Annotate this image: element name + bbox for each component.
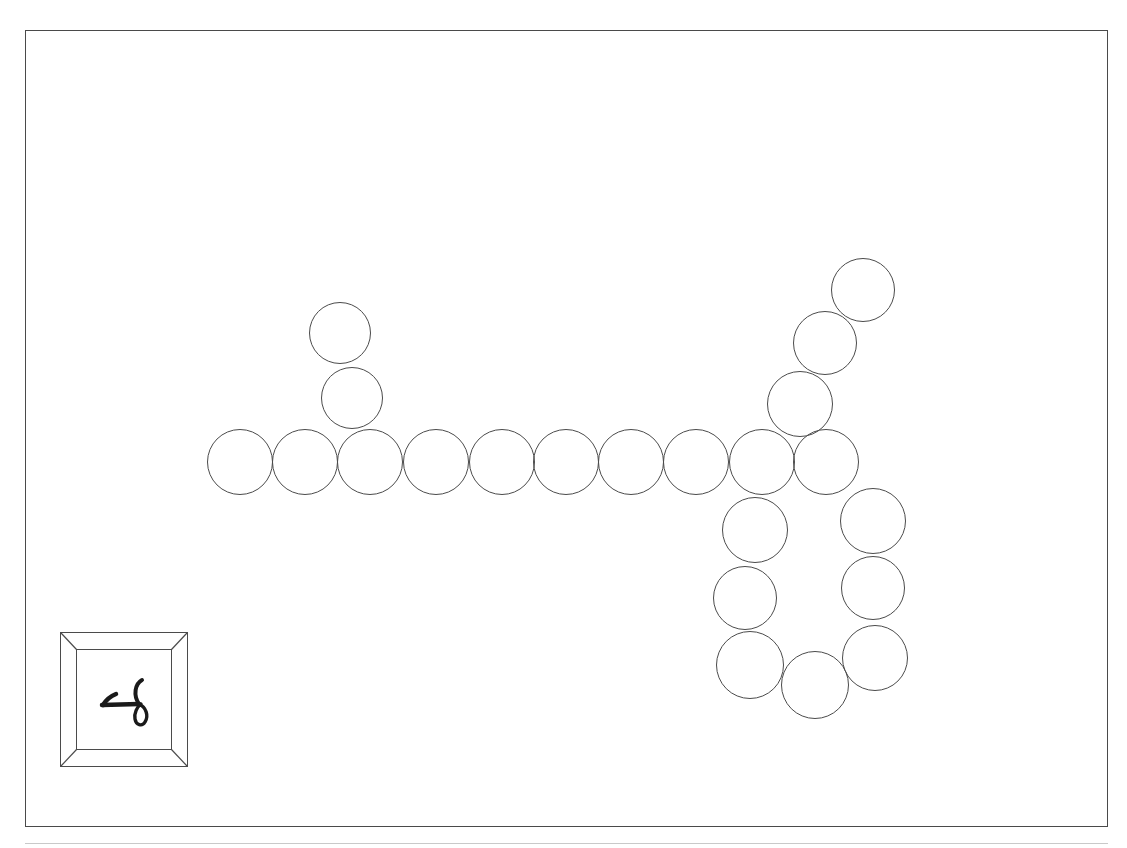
bead-row-10	[793, 429, 859, 495]
bead-diag-3	[831, 258, 895, 322]
bead-diag-1	[767, 371, 833, 437]
bead-row-9	[729, 429, 795, 495]
bead-row-2	[272, 429, 338, 495]
drawing-canvas: Bead chain drawing	[0, 0, 1127, 848]
bead-row-8	[663, 429, 729, 495]
bead-row-3	[337, 429, 403, 495]
bead-diag-2	[793, 311, 857, 375]
footer-rule	[25, 843, 1108, 844]
bead-loop-left-3	[716, 631, 784, 699]
bead-row-7	[598, 429, 664, 495]
framed-glyph	[60, 632, 188, 767]
bead-row-6	[533, 429, 599, 495]
bead-loop-left-1	[722, 497, 788, 563]
bead-loop-right-3	[842, 625, 908, 691]
bead-loop-bottom-1	[781, 651, 849, 719]
bead-row-5	[469, 429, 535, 495]
bead-stem-top	[309, 302, 371, 364]
bead-loop-right-1	[840, 488, 906, 554]
bead-loop-right-2	[841, 556, 905, 620]
page-title: Bead chain drawing	[0, 0, 1, 1]
bead-stem-lower	[321, 367, 383, 429]
handwritten-glyph	[76, 649, 172, 750]
bead-row-4	[403, 429, 469, 495]
bead-loop-left-2	[713, 566, 777, 630]
bead-row-1	[207, 429, 273, 495]
